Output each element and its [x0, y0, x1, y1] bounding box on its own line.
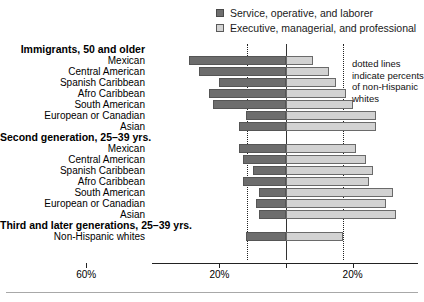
bar-service-operative-laborer: [256, 199, 286, 208]
category-label: Spanish Caribbean: [0, 165, 145, 176]
x-axis-line: [152, 263, 418, 264]
annotation-line-4: whites: [352, 93, 424, 105]
chart-row: South American: [0, 187, 424, 198]
bar-executive-managerial-professional: [286, 210, 396, 219]
group-heading-row: Second generation, 25–39 yrs.: [0, 132, 424, 143]
bottom-divider: [6, 292, 418, 293]
bar-service-operative-laborer: [259, 188, 286, 197]
bar-executive-managerial-professional: [286, 232, 343, 241]
bar-executive-managerial-professional: [286, 100, 353, 109]
x-axis-tick: [219, 263, 220, 268]
bar-service-operative-laborer: [199, 67, 286, 76]
x-axis: 60%20%20%60%: [0, 263, 424, 293]
x-axis-tick-label: 20%: [343, 269, 363, 281]
legend-swatch-service-icon: [216, 9, 224, 17]
bar-service-operative-laborer: [239, 122, 286, 131]
category-label: Afro Caribbean: [0, 176, 145, 187]
bar-executive-managerial-professional: [286, 56, 313, 65]
category-label: Central American: [0, 66, 145, 77]
bar-service-operative-laborer: [253, 166, 286, 175]
bar-executive-managerial-professional: [286, 111, 376, 120]
bar-executive-managerial-professional: [286, 188, 393, 197]
chart-row: Spanish Caribbean: [0, 165, 424, 176]
legend-item-executive: Executive, managerial, and professional: [216, 21, 422, 35]
bar-executive-managerial-professional: [286, 89, 346, 98]
x-axis-tick: [86, 263, 87, 268]
chart-row: European or Canadian: [0, 198, 424, 209]
x-axis-tick: [286, 263, 287, 268]
category-label: Spanish Caribbean: [0, 77, 145, 88]
chart-row: Non-Hispanic whites: [0, 231, 424, 242]
group-heading-label: Third and later generations, 25–39 yrs.: [0, 220, 145, 231]
chart-row: European or Canadian: [0, 110, 424, 121]
x-axis-tick: [353, 263, 354, 268]
x-axis-tick-label: 60%: [76, 269, 96, 281]
legend-label-service: Service, operative, and laborer: [230, 7, 373, 19]
bar-service-operative-laborer: [239, 144, 286, 153]
bar-service-operative-laborer: [246, 111, 286, 120]
category-label: Central American: [0, 154, 145, 165]
annotation-line-2: indicate percents: [352, 70, 424, 82]
bar-service-operative-laborer: [209, 89, 286, 98]
chart-row: Mexican: [0, 143, 424, 154]
category-label: Mexican: [0, 55, 145, 66]
bar-executive-managerial-professional: [286, 122, 376, 131]
bar-executive-managerial-professional: [286, 155, 366, 164]
category-label: Non-Hispanic whites: [0, 231, 145, 242]
category-label: South American: [0, 187, 145, 198]
bar-executive-managerial-professional: [286, 78, 336, 87]
annotation-line-1: dotted lines: [352, 58, 424, 70]
bar-service-operative-laborer: [243, 155, 286, 164]
bar-executive-managerial-professional: [286, 67, 329, 76]
x-axis-tick-label: 20%: [209, 269, 229, 281]
bar-service-operative-laborer: [189, 56, 286, 65]
group-heading-row: Immigrants, 50 and older: [0, 44, 424, 55]
category-label: European or Canadian: [0, 110, 145, 121]
bar-executive-managerial-professional: [286, 199, 386, 208]
annotation-note: dotted lines indicate percents of non-Hi…: [352, 58, 424, 104]
category-label: Mexican: [0, 143, 145, 154]
bar-service-operative-laborer: [259, 210, 286, 219]
bar-service-operative-laborer: [219, 78, 286, 87]
bar-service-operative-laborer: [243, 177, 286, 186]
chart-row: Afro Caribbean: [0, 176, 424, 187]
bar-service-operative-laborer: [246, 232, 286, 241]
group-heading-label: Immigrants, 50 and older: [0, 44, 145, 55]
bar-service-operative-laborer: [213, 100, 286, 109]
legend-label-executive: Executive, managerial, and professional: [230, 22, 416, 34]
chart-legend: Service, operative, and laborer Executiv…: [216, 6, 422, 36]
category-label: South American: [0, 99, 145, 110]
bar-executive-managerial-professional: [286, 177, 369, 186]
chart-figure: Service, operative, and laborer Executiv…: [0, 0, 424, 302]
group-heading-label: Second generation, 25–39 yrs.: [0, 132, 145, 143]
group-heading-row: Third and later generations, 25–39 yrs.: [0, 220, 424, 231]
bar-executive-managerial-professional: [286, 144, 356, 153]
legend-swatch-executive-icon: [216, 24, 224, 32]
category-label: European or Canadian: [0, 198, 145, 209]
category-label: Afro Caribbean: [0, 88, 145, 99]
annotation-line-3: of non-Hispanic: [352, 81, 424, 93]
bar-executive-managerial-professional: [286, 166, 373, 175]
chart-row: Central American: [0, 154, 424, 165]
legend-item-service: Service, operative, and laborer: [216, 6, 422, 20]
